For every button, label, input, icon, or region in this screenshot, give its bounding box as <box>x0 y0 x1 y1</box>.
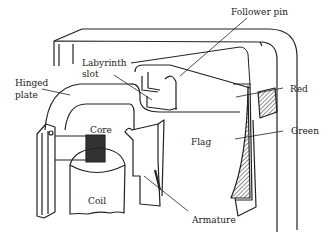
label-core: Core <box>90 125 112 135</box>
leader-labyrinth <box>114 75 152 100</box>
label-red: Red <box>290 84 308 94</box>
label-flag: Flag <box>191 137 211 147</box>
label-hinged-plate-1: Hinged <box>15 78 48 88</box>
hinged-plate <box>45 84 240 130</box>
label-green: Green <box>291 126 319 136</box>
diagram-drawing <box>0 0 328 235</box>
label-follower-pin: Follower pin <box>231 7 288 17</box>
label-hinged-plate-2: plate <box>15 90 38 100</box>
label-labyrinth-slot-1: Labyrinth <box>82 58 127 68</box>
diagram-canvas: Follower pin Labyrinth slot Hinged plate… <box>0 0 328 235</box>
leader-armature <box>144 176 188 211</box>
label-armature: Armature <box>192 215 236 225</box>
label-labyrinth-slot-2: slot <box>82 69 99 79</box>
left-post <box>37 124 55 218</box>
leader-green <box>235 131 283 139</box>
label-coil: Coil <box>88 196 106 206</box>
leader-hinged-plate <box>42 89 70 95</box>
flag <box>231 86 250 198</box>
armature <box>125 124 160 206</box>
